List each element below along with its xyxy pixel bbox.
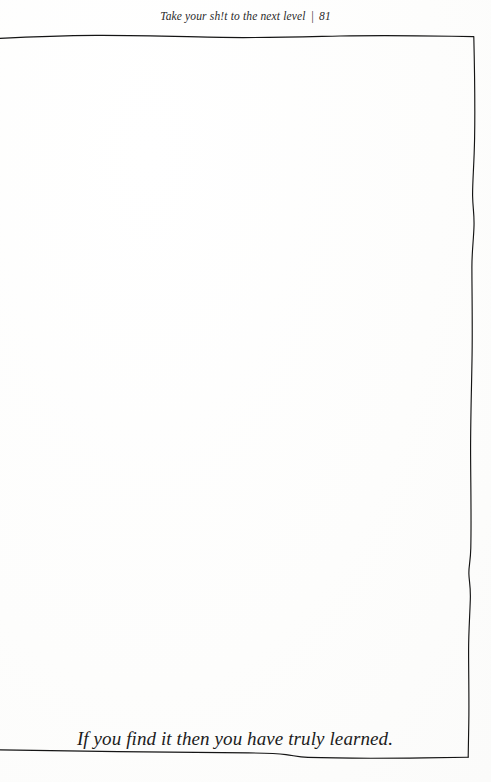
page-caption: If you find it then you have truly learn… bbox=[0, 726, 470, 752]
page-number: 81 bbox=[319, 10, 331, 22]
running-head-title: Take your sh!t to the next level bbox=[160, 10, 306, 22]
running-head-separator: | bbox=[309, 10, 316, 22]
page-body-blank-area bbox=[0, 40, 470, 730]
running-head: Take your sh!t to the next level | 81 bbox=[0, 8, 491, 24]
